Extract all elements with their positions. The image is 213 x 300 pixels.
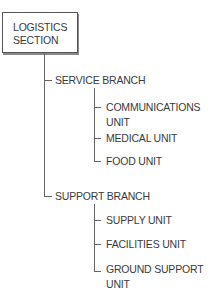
medical-unit-label: MEDICAL UNIT: [106, 132, 177, 145]
support-branch-tick: [44, 196, 52, 197]
main-trunk-connector: [44, 53, 45, 197]
communications-unit-label: COMMUNICATIONS UNIT: [106, 101, 200, 129]
support-branch-trunk: [94, 204, 95, 272]
logistics-section-box: LOGISTICS SECTION: [2, 12, 78, 53]
service-branch-label: SERVICE BRANCH: [55, 74, 145, 87]
supply-unit-tick: [94, 220, 101, 221]
ground-support-unit-tick: [94, 271, 101, 272]
food-unit-tick: [94, 161, 101, 162]
service-branch-tick: [44, 80, 52, 81]
supply-unit-label: SUPPLY UNIT: [106, 214, 172, 227]
ground-support-unit-label: GROUND SUPPORT UNIT: [106, 263, 203, 291]
medical-unit-tick: [94, 138, 101, 139]
facilities-unit-label: FACILITIES UNIT: [106, 238, 186, 251]
service-branch-trunk: [94, 88, 95, 161]
facilities-unit-tick: [94, 244, 101, 245]
root-label-line2: SECTION: [13, 34, 77, 47]
communications-unit-tick: [94, 107, 101, 108]
support-branch-label: SUPPORT BRANCH: [55, 190, 150, 203]
root-label-line1: LOGISTICS: [13, 21, 77, 34]
food-unit-label: FOOD UNIT: [106, 155, 162, 168]
